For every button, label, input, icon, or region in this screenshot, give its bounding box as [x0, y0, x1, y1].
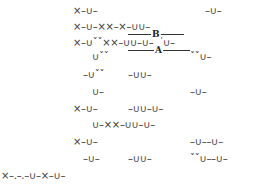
- bracket-b-label: B: [151, 30, 161, 39]
- scansion-line-11: ×–.–.–∪–×–∪–: [1, 171, 65, 181]
- scansion-line-7a: ×–∪–: [73, 104, 98, 114]
- scansion-line-1a: ×–∪–: [73, 6, 98, 16]
- scansion-line-2: ×–∪–××–×–∪∪–: [73, 22, 150, 32]
- scansion-line-4a: ∪ˇˇ: [92, 52, 108, 62]
- scansion-line-8: ∪–××–∪∪–∪–: [92, 120, 155, 130]
- scansion-line-5a: –∪ˇˇ: [83, 70, 104, 80]
- scansion-line-6b: –∪–: [190, 87, 206, 97]
- scansion-line-9a: ×–∪–: [73, 137, 98, 147]
- scansion-line-10a: –∪–: [83, 154, 99, 164]
- scansion-line-5b: –∪∪–: [128, 70, 151, 80]
- scansion-line-1b: –∪–: [205, 6, 221, 16]
- bracket-a-label: A: [154, 46, 163, 55]
- scansion-line-6a: ∪–: [92, 87, 104, 97]
- scansion-line-10b: –∪∪–: [128, 154, 151, 164]
- scansion-line-10c: ˇˇ∪––∪–: [190, 154, 228, 164]
- scansion-line-7b: –∪∪–∪–: [128, 104, 163, 114]
- scansion-line-9b: –∪––∪–: [190, 137, 223, 147]
- scansion-line-4b: ˇˇ∪–: [190, 52, 211, 62]
